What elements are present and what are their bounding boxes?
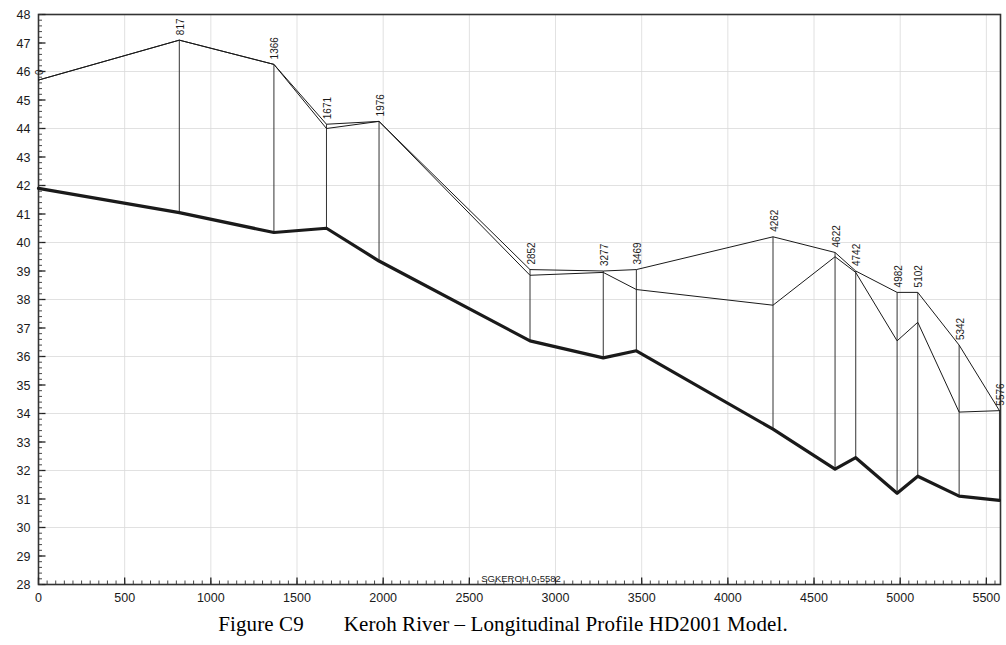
- figure-number: Figure C9: [218, 612, 304, 636]
- cross-section-label: 4982: [893, 265, 904, 288]
- y-tick-label: 42: [17, 179, 31, 193]
- watermark-text: SGKEROH 0-5582: [481, 573, 561, 584]
- x-tick-label: 0: [35, 591, 42, 605]
- y-tick-label: 40: [17, 236, 31, 250]
- y-tick-label: 38: [17, 293, 31, 307]
- y-tick-label: 35: [17, 379, 31, 393]
- x-tick-label: 5000: [886, 591, 914, 605]
- x-tick-label: 3000: [542, 591, 570, 605]
- longitudinal-profile-chart: 0817136616711976285232773469426246224742…: [0, 0, 1006, 608]
- chart-plot-area: 0817136616711976285232773469426246224742…: [0, 0, 1006, 608]
- y-tick-label: 32: [17, 464, 31, 478]
- y-tick-label: 33: [17, 436, 31, 450]
- y-tick-label: 36: [17, 350, 31, 364]
- cross-section-label: 1366: [269, 37, 280, 60]
- cross-section-label: 1671: [322, 97, 333, 120]
- figure-container: 0817136616711976285232773469426246224742…: [0, 0, 1006, 645]
- y-tick-label: 29: [17, 550, 31, 564]
- cross-section-label: 5576: [995, 383, 1006, 406]
- y-tick-label: 28: [17, 578, 31, 592]
- cross-section-label: 4622: [831, 225, 842, 248]
- cross-section-label: 5342: [955, 317, 966, 340]
- y-tick-label: 46: [17, 65, 31, 79]
- y-tick-label: 31: [17, 493, 31, 507]
- cross-section-label: 5102: [913, 265, 924, 288]
- x-tick-label: 4000: [714, 591, 742, 605]
- x-tick-label: 2500: [455, 591, 483, 605]
- cross-section-label: 2852: [526, 242, 537, 265]
- cross-section-label: 817: [175, 18, 186, 35]
- x-tick-label: 3500: [628, 591, 656, 605]
- cross-section-label: 3469: [632, 242, 643, 265]
- y-tick-label: 44: [17, 122, 31, 136]
- x-tick-label: 5500: [972, 591, 1000, 605]
- cross-section-label: 3277: [599, 243, 610, 266]
- cross-section-label: 4742: [851, 243, 862, 266]
- y-tick-label: 45: [17, 94, 31, 108]
- y-tick-label: 48: [17, 8, 31, 22]
- y-tick-label: 43: [17, 151, 31, 165]
- figure-caption: Figure C9Keroh River – Longitudinal Prof…: [0, 612, 1006, 637]
- x-tick-label: 1500: [283, 591, 311, 605]
- x-tick-label: 2000: [369, 591, 397, 605]
- y-tick-label: 47: [17, 37, 31, 51]
- y-tick-label: 39: [17, 265, 31, 279]
- cross-section-label: 4262: [769, 209, 780, 232]
- figure-title: Keroh River – Longitudinal Profile HD200…: [344, 612, 788, 636]
- x-tick-label: 4500: [800, 591, 828, 605]
- y-tick-label: 37: [17, 322, 31, 336]
- cross-section-label: 1976: [375, 94, 386, 117]
- y-tick-label: 30: [17, 521, 31, 535]
- y-tick-label: 34: [17, 407, 31, 421]
- x-tick-label: 500: [114, 591, 135, 605]
- y-tick-label: 41: [17, 208, 31, 222]
- x-tick-label: 1000: [197, 591, 225, 605]
- watermark: SGKEROH 0-5582: [481, 573, 561, 584]
